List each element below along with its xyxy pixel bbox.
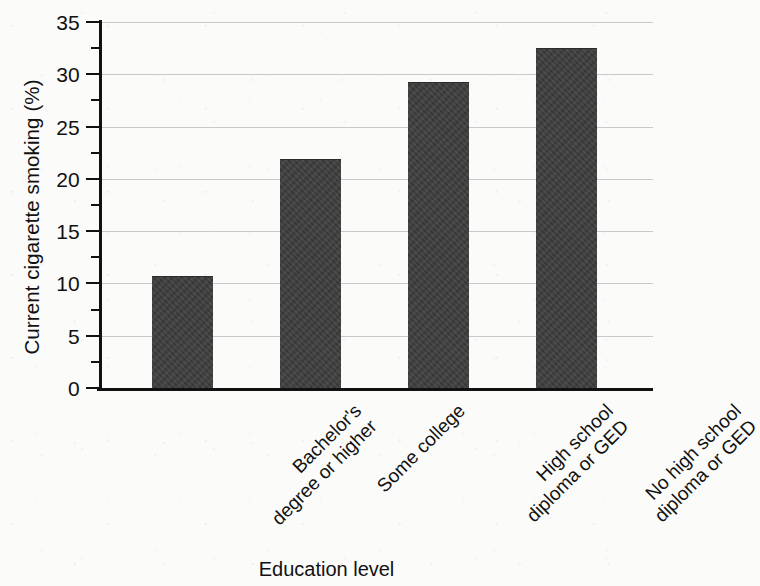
y-tick-major: [86, 178, 99, 180]
x-category-label-line: Some college: [373, 400, 470, 497]
gridline: [99, 22, 653, 23]
bar: [152, 276, 213, 388]
y-tick-label: 25: [56, 116, 80, 137]
y-tick-major: [86, 21, 99, 23]
x-axis-title: Education level: [0, 558, 653, 581]
y-tick-major: [86, 230, 99, 232]
bar: [408, 82, 469, 388]
y-tick-minor: [91, 361, 99, 363]
y-tick-label: 35: [56, 12, 80, 33]
x-axis-line: [97, 388, 653, 391]
y-tick-label: 10: [56, 273, 80, 294]
x-category-label: Bachelor'sdegree or higher: [252, 400, 382, 530]
y-tick-major: [86, 126, 99, 128]
y-tick-major: [86, 282, 99, 284]
y-tick-minor: [91, 256, 99, 258]
y-axis-ticks: 05101520253035: [0, 22, 99, 388]
y-tick-minor: [91, 99, 99, 101]
x-category-label: No high schooldiploma or GED: [635, 400, 760, 527]
y-tick-label: 20: [56, 168, 80, 189]
y-tick-major: [86, 73, 99, 75]
y-tick-major: [86, 335, 99, 337]
y-tick-label: 5: [68, 325, 80, 346]
y-tick-minor: [91, 204, 99, 206]
x-category-label: Some college: [373, 400, 470, 497]
y-axis-line: [99, 20, 102, 390]
y-tick-label: 0: [68, 378, 80, 399]
y-tick-label: 15: [56, 221, 80, 242]
y-tick-minor: [91, 152, 99, 154]
y-tick-minor: [91, 47, 99, 49]
bar: [280, 159, 341, 388]
x-category-label: High schooldiploma or GED: [507, 400, 634, 527]
bar: [536, 48, 597, 388]
plot-area: [99, 22, 653, 388]
y-tick-label: 30: [56, 64, 80, 85]
y-tick-minor: [91, 309, 99, 311]
